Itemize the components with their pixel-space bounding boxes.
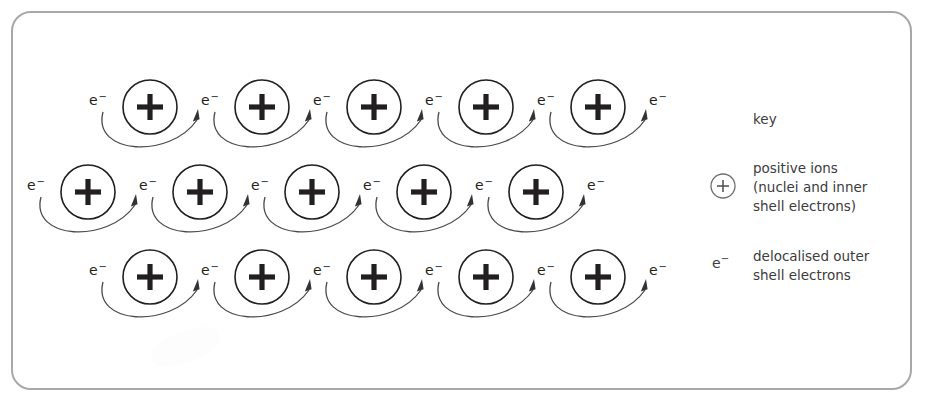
electron-symbol: e xyxy=(537,92,546,108)
electron-charge: − xyxy=(435,91,443,102)
electron-charge: − xyxy=(149,176,157,187)
electron-symbol: e xyxy=(649,262,658,278)
electron-charge: − xyxy=(211,261,219,272)
electron-symbol: e xyxy=(363,177,372,193)
electron-flow-arrowhead xyxy=(193,109,200,122)
key-electron-charge: − xyxy=(721,253,729,264)
electron-label: e− xyxy=(313,261,331,278)
electron-symbol: e xyxy=(649,92,658,108)
electron-label: e− xyxy=(201,91,219,108)
electron-symbol: e xyxy=(27,177,36,193)
electron-charge: − xyxy=(37,176,45,187)
electron-symbol: e xyxy=(201,262,210,278)
electron-flow-arrowhead xyxy=(355,194,362,207)
electron-label: e− xyxy=(363,176,381,193)
electron-label: e− xyxy=(537,91,555,108)
electron-flow-arrowhead xyxy=(529,109,536,122)
electron-charge: − xyxy=(323,91,331,102)
key-title: key xyxy=(753,110,777,129)
electron-flow-arrowhead xyxy=(467,194,474,207)
electron-charge: − xyxy=(261,176,269,187)
electron-label: e− xyxy=(139,176,157,193)
electron-charge: − xyxy=(485,176,493,187)
electron-flow-arrowhead xyxy=(529,279,536,292)
electron-flow-arrowhead xyxy=(305,279,312,292)
electron-symbol: e xyxy=(89,92,98,108)
electron-charge: − xyxy=(659,91,667,102)
electron-flow-arrowhead xyxy=(131,194,138,207)
electron-flow-arrowhead xyxy=(243,194,250,207)
electron-charge: − xyxy=(659,261,667,272)
electron-charge: − xyxy=(99,91,107,102)
electron-symbol: e xyxy=(313,92,322,108)
electron-label: e− xyxy=(27,176,45,193)
electron-label: e− xyxy=(649,91,667,108)
electron-symbol: e xyxy=(425,262,434,278)
electron-label: e− xyxy=(537,261,555,278)
ion-lattice: e−e−e−e−e−e−e−e−e−e−e−e−e−e−e−e−e−e− xyxy=(27,80,667,317)
electron-label: e− xyxy=(425,261,443,278)
electron-label: e− xyxy=(425,91,443,108)
electron-label: e− xyxy=(89,261,107,278)
electron-charge: − xyxy=(547,261,555,272)
key-electron-label: delocalised outer shell electrons xyxy=(753,247,869,285)
electron-symbol: e xyxy=(201,92,210,108)
electron-charge: − xyxy=(597,176,605,187)
electron-symbol: e xyxy=(313,262,322,278)
electron-label: e− xyxy=(313,91,331,108)
electron-charge: − xyxy=(373,176,381,187)
electron-symbol: e xyxy=(425,92,434,108)
electron-label: e− xyxy=(201,261,219,278)
electron-label: e− xyxy=(649,261,667,278)
key-glyphs xyxy=(711,174,735,198)
electron-symbol: e xyxy=(89,262,98,278)
electron-flow-arrowhead xyxy=(417,109,424,122)
electron-symbol: e xyxy=(475,177,484,193)
electron-symbol: e xyxy=(587,177,596,193)
electron-flow-arrowhead xyxy=(579,194,586,207)
key-electron-glyph: e xyxy=(712,255,721,271)
electron-charge: − xyxy=(323,261,331,272)
electron-symbol: e xyxy=(537,262,546,278)
electron-symbol: e xyxy=(139,177,148,193)
electron-flow-arrowhead xyxy=(193,279,200,292)
electron-label: e− xyxy=(251,176,269,193)
electron-label: e− xyxy=(475,176,493,193)
electron-symbol: e xyxy=(251,177,260,193)
electron-label: e− xyxy=(587,176,605,193)
electron-flow-arrowhead xyxy=(641,279,648,292)
key-electron-icon: e− xyxy=(712,253,729,271)
metallic-bonding-figure: e−e−e−e−e−e−e−e−e−e−e−e−e−e−e−e−e−e− key… xyxy=(0,0,934,411)
electron-charge: − xyxy=(211,91,219,102)
electron-flow-arrowhead xyxy=(417,279,424,292)
electron-flow-arrowhead xyxy=(641,109,648,122)
electron-charge: − xyxy=(99,261,107,272)
key-positive-ion-label: positive ions (nuclei and inner shell el… xyxy=(753,159,867,216)
electron-flow-arrowhead xyxy=(305,109,312,122)
electron-charge: − xyxy=(435,261,443,272)
electron-label: e− xyxy=(89,91,107,108)
electron-charge: − xyxy=(547,91,555,102)
